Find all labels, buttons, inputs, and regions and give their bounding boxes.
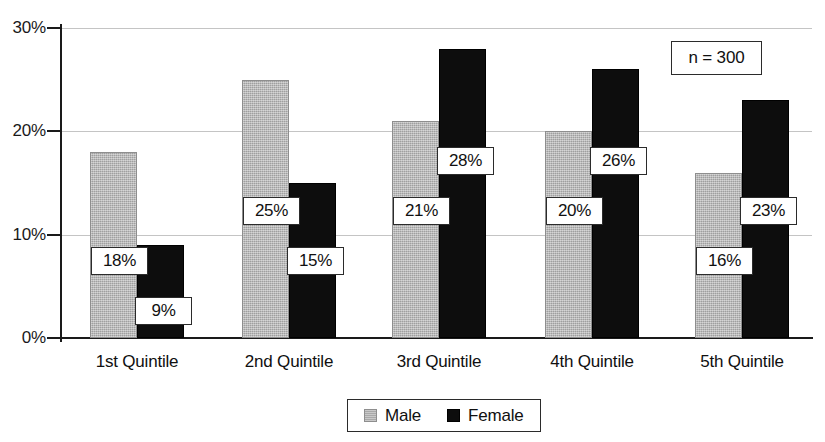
data-label-female-4: 26% (590, 147, 647, 175)
category-label-5: 5th Quintile (667, 352, 817, 372)
bar-female-3 (439, 49, 486, 338)
bar-chart: 0%10%20%30% 18%9%25%15%21%28%20%26%16%23… (0, 0, 825, 442)
data-label-male-4: 20% (546, 197, 603, 225)
sample-size-annotation: n = 300 (671, 41, 762, 75)
y-axis-line (60, 24, 62, 342)
category-label-3: 3rd Quintile (364, 352, 514, 372)
data-label-female-2: 15% (287, 247, 344, 275)
male-swatch-icon (364, 409, 377, 422)
legend-label-male: Male (385, 407, 421, 424)
category-label-4: 4th Quintile (517, 352, 667, 372)
data-label-male-5: 16% (696, 247, 753, 275)
y-axis-label-wrap: 30% (0, 19, 46, 36)
data-label-male-3: 21% (393, 197, 450, 225)
female-swatch-icon (447, 409, 460, 422)
y-axis-label: 10% (0, 226, 46, 243)
data-label-male-1: 18% (91, 247, 148, 275)
legend-item-female[interactable]: Female (447, 407, 524, 424)
legend-label-female: Female (468, 407, 524, 424)
category-label-2: 2nd Quintile (214, 352, 364, 372)
bar-male-4 (545, 131, 592, 338)
data-label-male-2: 25% (243, 197, 300, 225)
sample-size-text: n = 300 (689, 48, 745, 68)
category-label-1: 1st Quintile (62, 352, 212, 372)
y-axis-label: 20% (0, 122, 46, 139)
data-label-female-3: 28% (437, 147, 494, 175)
y-axis-label-wrap: 20% (0, 122, 46, 139)
y-tick-mark (47, 337, 61, 339)
y-axis-label-wrap: 0% (0, 329, 46, 346)
y-tick-mark (47, 234, 61, 236)
legend-item-male[interactable]: Male (364, 407, 421, 424)
bar-male-3 (392, 121, 439, 338)
data-label-female-5: 23% (740, 197, 797, 225)
y-tick-mark (47, 130, 61, 132)
data-label-female-1: 9% (135, 297, 192, 325)
chart-legend: Male Female (347, 399, 541, 432)
y-axis-label-wrap: 10% (0, 226, 46, 243)
y-axis-label: 0% (0, 329, 46, 346)
gridline-30% (61, 28, 812, 29)
y-axis-label: 30% (0, 19, 46, 36)
y-tick-mark (47, 27, 61, 29)
bar-male-1 (90, 152, 137, 338)
